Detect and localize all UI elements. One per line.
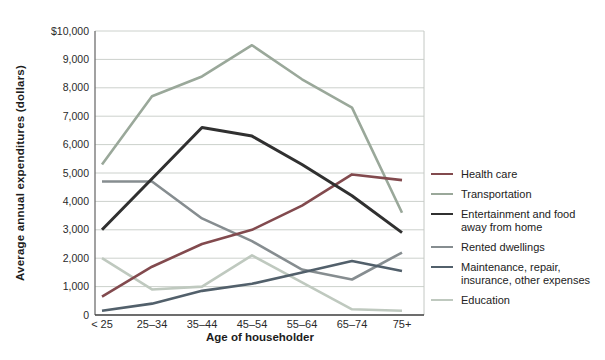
y-tick-label: 7,000 bbox=[63, 110, 89, 122]
x-tick-label: 35–44 bbox=[187, 318, 218, 330]
x-tick-label: < 25 bbox=[91, 318, 113, 330]
legend-item-label: Transportation bbox=[461, 188, 532, 201]
y-tick-label: 6,000 bbox=[63, 138, 89, 150]
y-tick-label: 4,000 bbox=[63, 195, 89, 207]
legend-item-label: Education bbox=[461, 294, 510, 307]
legend-item: Education bbox=[431, 294, 603, 307]
legend-item: Rented dwellings bbox=[431, 241, 603, 254]
y-tick-label: 5,000 bbox=[63, 167, 89, 179]
legend-item: Transportation bbox=[431, 188, 603, 201]
y-tick-label: $10,000 bbox=[51, 25, 89, 37]
legend-line-swatch bbox=[431, 193, 453, 195]
legend-line-swatch bbox=[431, 173, 453, 175]
x-tick-label: 65–74 bbox=[337, 318, 368, 330]
legend-line-swatch bbox=[431, 266, 453, 268]
x-tick-label: 25–34 bbox=[137, 318, 168, 330]
y-tick-label: 0 bbox=[83, 309, 89, 321]
x-tick-label: 55–64 bbox=[287, 318, 318, 330]
y-tick-label: 3,000 bbox=[63, 223, 89, 235]
legend-line-swatch bbox=[431, 213, 453, 215]
legend-item: Entertainment and food away from home bbox=[431, 208, 603, 234]
legend-item-label: Maintenance, repair, insurance, other ex… bbox=[461, 261, 590, 287]
expenditures-by-age-line-chart: $10,0009,0008,0007,0006,0005,0004,0003,0… bbox=[0, 0, 605, 360]
x-axis-title: Age of householder bbox=[150, 331, 370, 343]
x-tick-label: 45–54 bbox=[237, 318, 268, 330]
series-line-entertainment-and-food-away-from-home bbox=[102, 128, 402, 233]
legend-item: Maintenance, repair, insurance, other ex… bbox=[431, 261, 603, 287]
legend-line-swatch bbox=[431, 246, 453, 248]
chart-legend: Health careTransportationEntertainment a… bbox=[431, 168, 603, 314]
legend-item: Health care bbox=[431, 168, 603, 181]
x-tick-label: 75+ bbox=[393, 318, 412, 330]
y-tick-label: 1,000 bbox=[63, 280, 89, 292]
legend-line-swatch bbox=[431, 299, 453, 301]
legend-item-label: Rented dwellings bbox=[461, 241, 545, 254]
y-tick-label: 8,000 bbox=[63, 81, 89, 93]
legend-item-label: Entertainment and food away from home bbox=[461, 208, 575, 234]
y-tick-label: 9,000 bbox=[63, 53, 89, 65]
series-line-transportation bbox=[102, 45, 402, 213]
y-tick-label: 2,000 bbox=[63, 252, 89, 264]
y-axis-title: Average annual expenditures (dollars) bbox=[14, 23, 28, 323]
legend-item-label: Health care bbox=[461, 168, 517, 181]
